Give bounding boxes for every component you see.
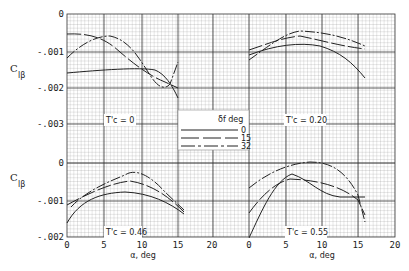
svg-text:20: 20 — [390, 240, 401, 250]
legend: δf deg 0 15 32 — [178, 110, 251, 151]
x-axis-label-right: α, deg — [309, 251, 334, 260]
panel-tr-label: T'c = 0.20 — [285, 116, 327, 125]
svg-text:-.002: -.002 — [37, 83, 64, 93]
svg-text:10: 10 — [137, 240, 148, 250]
svg-text:5: 5 — [283, 240, 288, 250]
svg-text:C: C — [10, 63, 18, 74]
panel-tl-label: T'c = 0 — [105, 116, 134, 125]
legend-title: δf deg — [218, 115, 243, 124]
panel-bl-label: T'c = 0.46 — [105, 228, 147, 237]
chart-figure: δf deg 0 15 32 T'c = 0 T'c = 0.20 T'c = … — [0, 0, 409, 271]
svg-text:0: 0 — [59, 158, 64, 168]
svg-text:-.003: -.003 — [37, 119, 64, 129]
y-axis-label-top: C lβ — [10, 63, 25, 80]
svg-text:10: 10 — [317, 240, 328, 250]
y-ticks: 0 -.001 -.002 -.003 0 -.001 -.002 — [37, 9, 64, 242]
svg-text:5: 5 — [101, 240, 106, 250]
svg-text:-.002: -.002 — [37, 232, 64, 242]
svg-text:0: 0 — [246, 240, 251, 250]
svg-text:C: C — [10, 172, 18, 183]
svg-text:lβ: lβ — [18, 71, 25, 80]
svg-text:0: 0 — [59, 9, 64, 19]
svg-text:-.001: -.001 — [37, 196, 64, 206]
panel-br-label: T'c = 0.55 — [286, 228, 328, 237]
svg-text:0: 0 — [64, 240, 69, 250]
svg-text:15: 15 — [173, 240, 184, 250]
x-axis-label-left: α, deg — [130, 251, 155, 260]
svg-text:-.001: -.001 — [37, 47, 64, 57]
svg-text:20: 20 — [207, 240, 218, 250]
svg-text:15: 15 — [353, 240, 364, 250]
x-ticks: 0 5 10 15 20 0 5 10 15 20 — [64, 240, 400, 250]
legend-label-32: 32 — [241, 142, 251, 151]
svg-text:lβ: lβ — [18, 180, 25, 189]
y-axis-label-bottom: C lβ — [10, 172, 25, 189]
